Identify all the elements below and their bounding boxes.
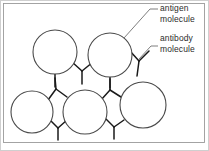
label-antigen-line2: molecule	[160, 14, 195, 25]
antigen-bottom-left	[11, 91, 53, 133]
antigen-top-right	[88, 33, 132, 77]
label-antibody-molecule: antibody molecule	[160, 33, 195, 54]
label-antibody-line2: molecule	[160, 44, 195, 55]
label-antigen-molecule: antigen molecule	[160, 3, 195, 24]
antigen-bottom-mid	[63, 90, 107, 134]
label-antigen-line1: antigen	[160, 3, 189, 13]
antigen-top-left	[33, 30, 77, 74]
antigen-bottom-right	[120, 82, 166, 128]
figure-root: antigen molecule antibody molecule	[0, 0, 209, 151]
label-antibody-line1: antibody	[160, 33, 193, 43]
